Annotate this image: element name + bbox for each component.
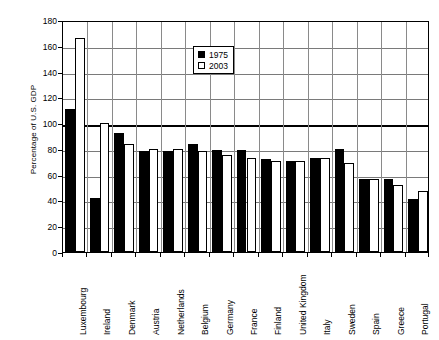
bar-france-2003 — [247, 158, 257, 252]
y-axis-tick-label: 140 — [33, 69, 57, 77]
legend-swatch-2003-icon — [198, 62, 205, 69]
y-axis-tick-label: 60 — [33, 172, 57, 180]
x-axis-tick-label: Finland — [273, 307, 283, 335]
bar-italy-1975 — [310, 158, 320, 252]
bar-belgium-1975 — [188, 144, 198, 252]
bar-united-kingdom-1975 — [286, 161, 296, 253]
bar-luxembourg-1975 — [65, 109, 75, 252]
y-axis-tick-label: 160 — [33, 43, 57, 51]
legend-label-2003: 2003 — [209, 61, 228, 71]
plot-area — [62, 21, 429, 253]
bar-finland-2003 — [271, 161, 281, 253]
bar-germany-1975 — [212, 150, 222, 252]
x-axis-tick-label: Luxembourg — [78, 288, 88, 335]
x-axis-tick-label: Italy — [322, 319, 332, 335]
bar-ireland-1975 — [90, 198, 100, 252]
x-axis-tick-labels: LuxembourgIrelandDenmarkAustriaNetherlan… — [62, 257, 429, 339]
bar-netherlands-2003 — [173, 149, 183, 252]
bar-portugal-2003 — [418, 191, 428, 252]
bar-chart: Percentage of U.S. GDP 02040608010012014… — [0, 0, 439, 340]
x-axis-tick-label: United Kingdom — [298, 275, 308, 335]
bar-greece-2003 — [393, 185, 403, 252]
bar-ireland-2003 — [100, 123, 110, 252]
bar-belgium-2003 — [198, 151, 208, 252]
bar-netherlands-1975 — [163, 151, 173, 252]
y-axis-tick-label: 100 — [33, 120, 57, 128]
legend-swatch-1975-icon — [198, 51, 205, 58]
y-axis-tick-labels: 020406080100120140160180 — [33, 0, 57, 340]
x-axis-tick-label: Ireland — [102, 309, 112, 335]
y-axis-tick-label: 80 — [33, 146, 57, 154]
x-axis-tick-label: France — [249, 309, 259, 335]
bar-sweden-1975 — [335, 149, 345, 252]
x-axis-tick-label: Spain — [371, 313, 381, 335]
bar-portugal-1975 — [408, 199, 418, 252]
bar-sweden-2003 — [344, 163, 354, 252]
x-axis-tick-label: Netherlands — [176, 289, 186, 335]
bar-denmark-1975 — [114, 133, 124, 252]
y-axis-tick-label: 180 — [33, 17, 57, 25]
bar-greece-1975 — [384, 179, 394, 252]
y-axis-tick-label: 20 — [33, 223, 57, 231]
bar-denmark-2003 — [124, 144, 134, 252]
bar-finland-1975 — [261, 159, 271, 252]
x-axis-tick-label: Austria — [151, 309, 161, 335]
bar-france-1975 — [237, 150, 247, 252]
legend: 1975 2003 — [193, 46, 234, 74]
legend-label-1975: 1975 — [209, 50, 228, 60]
x-axis-tick-label: Greece — [396, 307, 406, 335]
legend-item: 2003 — [198, 60, 228, 71]
y-axis-tick-label: 120 — [33, 94, 57, 102]
y-axis-tick-label: 0 — [33, 249, 57, 257]
bar-spain-2003 — [369, 179, 379, 252]
x-axis-tick-label: Germany — [225, 300, 235, 335]
bars-layer — [63, 22, 428, 252]
x-axis-tick-label: Portugal — [420, 303, 430, 335]
legend-item: 1975 — [198, 49, 228, 60]
x-axis-tick-label: Sweden — [347, 304, 357, 335]
bar-italy-2003 — [320, 158, 330, 252]
x-axis-tick-label: Belgium — [200, 304, 210, 335]
bar-luxembourg-2003 — [75, 38, 85, 252]
bar-spain-1975 — [359, 179, 369, 252]
x-axis-tick-label: Denmark — [127, 301, 137, 335]
bar-austria-1975 — [139, 151, 149, 252]
bar-germany-2003 — [222, 155, 232, 252]
y-axis-tick-label: 40 — [33, 197, 57, 205]
bar-austria-2003 — [149, 149, 159, 252]
bar-united-kingdom-2003 — [295, 161, 305, 253]
